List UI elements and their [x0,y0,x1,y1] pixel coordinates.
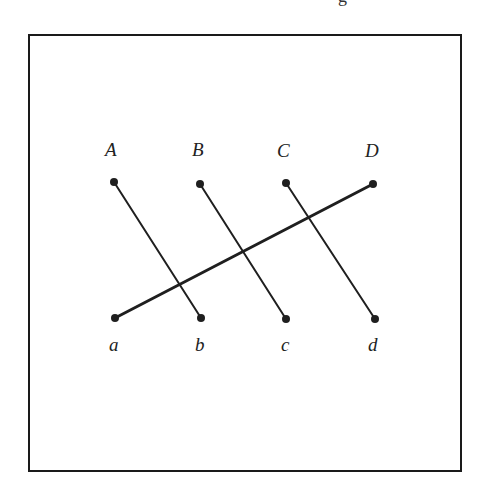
point-C [282,179,290,187]
segments [114,182,375,319]
label-c: c [281,334,290,355]
segment-C-d [286,183,375,319]
label-a: a [109,334,119,355]
label-A: A [103,139,117,160]
point-a [111,314,119,322]
label-D: D [364,140,379,161]
crossing-lines-diagram: A B C D a b c d [0,0,482,495]
point-b [197,314,205,322]
label-C: C [277,140,290,161]
point-c [282,315,290,323]
segment-a-D [115,184,373,318]
point-d [371,315,379,323]
label-b: b [195,334,205,355]
point-D [369,180,377,188]
label-d: d [368,334,378,355]
label-B: B [192,139,204,160]
point-B [196,180,204,188]
point-A [110,178,118,186]
